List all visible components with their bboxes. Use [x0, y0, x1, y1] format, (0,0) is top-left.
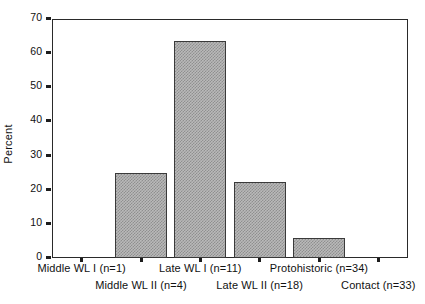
bar-3: [174, 41, 226, 258]
y-tick-label: 40: [16, 113, 42, 125]
y-tick-label: 20: [16, 182, 42, 194]
y-tick-mark: [46, 51, 51, 54]
y-tick-label: 0: [16, 250, 42, 262]
plot-area: [52, 19, 408, 258]
y-tick-mark: [46, 119, 51, 122]
y-tick-mark: [46, 188, 51, 191]
bar-chart-figure: Percent 010203040506070 Middle WL I (n=1…: [0, 0, 425, 304]
y-tick-mark: [46, 222, 51, 225]
y-tick-label: 30: [16, 148, 42, 160]
bar-4: [234, 182, 286, 258]
y-tick-label: 50: [16, 79, 42, 91]
y-tick-mark: [46, 85, 51, 88]
y-tick-mark: [46, 154, 51, 157]
x-axis-label-5: Protohistoric (n=34): [229, 262, 409, 274]
x-axis-label-6: Contact (n=33): [288, 279, 425, 291]
y-axis-title: Percent: [2, 104, 14, 184]
y-tick-label: 10: [16, 216, 42, 228]
y-tick-label: 60: [16, 45, 42, 57]
bar-5: [293, 238, 345, 258]
y-tick-label: 70: [16, 11, 42, 23]
y-tick-mark: [46, 17, 51, 20]
y-tick-mark: [46, 256, 51, 259]
bar-2: [115, 173, 167, 258]
